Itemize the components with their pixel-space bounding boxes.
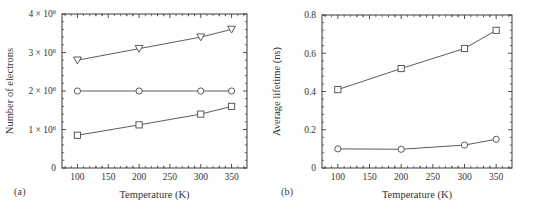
data-point-marker — [493, 136, 499, 142]
data-point-marker — [228, 103, 234, 109]
y-tick-label: 0.6 — [304, 49, 316, 59]
panel-b: 10015020025030035000.20.40.60.8Temperatu… — [267, 0, 534, 212]
y-tick-label: 2 × 106 — [28, 85, 56, 96]
y-tick-labels: 00.20.40.60.8 — [304, 10, 316, 173]
y-axis-title: Average lifetime (ns) — [271, 46, 283, 136]
two-panel-figure: 10015020025030035001 × 1062 × 1063 × 106… — [0, 0, 534, 212]
data-point-marker — [74, 88, 80, 94]
data-point-marker — [335, 86, 341, 92]
x-axis-title: Temperature (K) — [119, 189, 190, 201]
x-tick-label: 250 — [163, 172, 178, 182]
y-axis-title: Number of electrons — [4, 48, 15, 134]
panel-b-plot: 10015020025030035000.20.40.60.8Temperatu… — [267, 0, 534, 212]
panel-a-caption: (a) — [14, 186, 26, 197]
x-tick-label: 150 — [101, 172, 116, 182]
x-tick-label: 250 — [426, 172, 441, 182]
data-point-marker — [398, 146, 404, 152]
y-tick-label: 0 — [51, 163, 56, 173]
panel-b-caption: (b) — [281, 186, 293, 197]
x-tick-label: 150 — [362, 172, 377, 182]
x-tick-label: 350 — [224, 172, 239, 182]
x-tick-label: 300 — [194, 172, 209, 182]
series-line — [338, 139, 496, 149]
x-tick-label: 100 — [331, 172, 346, 182]
data-point-marker — [136, 122, 142, 128]
y-tick-label: 1 × 106 — [28, 124, 56, 135]
series-line — [338, 30, 496, 89]
panel-a: 10015020025030035001 × 1062 × 1063 × 106… — [0, 0, 267, 212]
data-point-marker — [74, 57, 82, 64]
x-tick-label: 200 — [394, 172, 409, 182]
y-tick-label: 0 — [311, 163, 316, 173]
y-tick-label: 0.8 — [304, 10, 316, 20]
series-circle-series — [335, 136, 500, 152]
x-tick-labels: 100150200250300350 — [70, 172, 239, 182]
x-tick-label: 100 — [70, 172, 85, 182]
series-square-series — [74, 103, 234, 138]
data-point-marker — [198, 88, 204, 94]
x-axis-title: Temperature (K) — [382, 189, 453, 201]
y-tick-label: 4 × 106 — [28, 8, 56, 19]
data-point-marker — [493, 27, 499, 33]
data-point-marker — [136, 88, 142, 94]
x-tick-label: 200 — [132, 172, 147, 182]
data-point-marker — [461, 142, 467, 148]
y-tick-label: 3 × 106 — [28, 47, 56, 58]
series-square-series — [335, 27, 500, 92]
data-point-marker — [398, 65, 404, 71]
y-tick-label: 0.4 — [304, 87, 316, 97]
data-point-marker — [461, 45, 467, 51]
data-point-marker — [74, 132, 80, 138]
data-point-marker — [228, 88, 234, 94]
x-tick-label: 350 — [489, 172, 504, 182]
x-tick-label: 300 — [457, 172, 472, 182]
y-tick-labels: 01 × 1062 × 1063 × 1064 × 106 — [28, 8, 56, 173]
x-tick-labels: 100150200250300350 — [331, 172, 504, 182]
y-tick-label: 0.2 — [304, 125, 316, 135]
series-line — [77, 106, 231, 135]
series-circle-series — [74, 88, 234, 94]
data-point-marker — [198, 111, 204, 117]
series-line — [77, 29, 231, 60]
data-point-marker — [335, 146, 341, 152]
panel-a-plot: 10015020025030035001 × 1062 × 1063 × 106… — [0, 0, 267, 212]
series-triangle-series — [74, 26, 236, 64]
